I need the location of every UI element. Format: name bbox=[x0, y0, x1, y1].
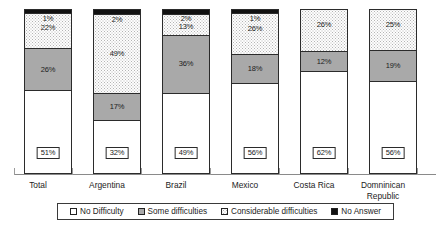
value-label-considerable-difficulties: 26% bbox=[317, 21, 332, 29]
segment-no-answer[interactable] bbox=[232, 10, 278, 14]
segment-some-difficulties[interactable]: 26% bbox=[25, 49, 71, 91]
segment-no-difficulty[interactable]: 49% bbox=[163, 94, 209, 173]
segment-some-difficulties[interactable]: 17% bbox=[94, 94, 140, 121]
value-label-no-answer: 2% bbox=[181, 15, 192, 23]
segment-considerable-difficulties[interactable]: 26% 1% bbox=[232, 14, 278, 55]
segment-no-difficulty[interactable]: 51% bbox=[25, 91, 71, 173]
segment-no-answer[interactable] bbox=[163, 10, 209, 15]
segment-no-answer[interactable] bbox=[94, 10, 140, 15]
stacked-bar-brazil[interactable]: 49% 36% 13% 2% bbox=[162, 9, 210, 174]
value-label-no-difficulty: 62% bbox=[313, 147, 336, 159]
segment-no-answer[interactable] bbox=[25, 10, 71, 14]
axis-tick bbox=[417, 168, 418, 175]
segment-no-difficulty[interactable]: 32% bbox=[94, 121, 140, 173]
stacked-bar-argentina[interactable]: 32% 17% 49% 2% bbox=[93, 9, 141, 174]
value-label-no-difficulty: 51% bbox=[37, 147, 60, 159]
legend-item-some-difficulties[interactable]: Some difficulties bbox=[138, 207, 207, 216]
stacked-bar-chart: 51% 26% 22% 1% 32% 17% bbox=[0, 0, 447, 237]
segment-considerable-difficulties[interactable]: 49% 2% bbox=[94, 15, 140, 94]
segment-no-difficulty[interactable]: 62% bbox=[301, 72, 347, 173]
value-label-no-difficulty: 56% bbox=[244, 147, 267, 159]
x-axis-label-dominican-republic: Domninican Republic bbox=[337, 180, 429, 201]
value-label-some-difficulties: 36% bbox=[179, 60, 194, 68]
segment-no-difficulty[interactable]: 56% bbox=[232, 84, 278, 173]
gray-swatch-icon bbox=[138, 208, 145, 215]
value-label-no-answer: 1% bbox=[43, 15, 54, 23]
legend-item-no-answer[interactable]: No Answer bbox=[331, 207, 381, 216]
value-label-considerable-difficulties: 26% bbox=[248, 25, 263, 33]
value-label-some-difficulties: 26% bbox=[41, 66, 56, 74]
legend-label-no-difficulty: No Difficulty bbox=[80, 207, 124, 216]
stacked-bar-costa-rica[interactable]: 62% 12% 26% bbox=[300, 9, 348, 174]
value-label-some-difficulties: 17% bbox=[110, 103, 125, 111]
bar-group-total: 51% 26% 22% 1% bbox=[24, 9, 72, 174]
value-label-no-difficulty: 56% bbox=[382, 147, 405, 159]
axis-tick bbox=[210, 168, 211, 175]
value-label-no-difficulty: 32% bbox=[106, 147, 129, 159]
segment-some-difficulties[interactable]: 19% bbox=[370, 51, 416, 82]
bar-group-brazil: 49% 36% 13% 2% bbox=[162, 9, 210, 174]
value-label-considerable-difficulties: 49% bbox=[110, 50, 125, 58]
axis-tick bbox=[72, 168, 73, 175]
axis-tick bbox=[14, 168, 15, 175]
segment-some-difficulties[interactable]: 12% bbox=[301, 52, 347, 72]
bar-group-costa-rica: 62% 12% 26% bbox=[300, 9, 348, 174]
bar-group-dominican-republic: 56% 19% 25% bbox=[369, 9, 417, 174]
stacked-bar-mexico[interactable]: 56% 18% 26% 1% bbox=[231, 9, 279, 174]
legend-label-considerable-difficulties: Considerable difficulties bbox=[231, 207, 317, 216]
segment-no-difficulty[interactable]: 56% bbox=[370, 82, 416, 173]
bar-group-argentina: 32% 17% 49% 2% bbox=[93, 9, 141, 174]
value-label-some-difficulties: 18% bbox=[248, 65, 263, 73]
x-axis-line bbox=[14, 174, 436, 175]
dotted-swatch-icon bbox=[221, 208, 228, 215]
segment-considerable-difficulties[interactable]: 13% 2% bbox=[163, 15, 209, 36]
x-axis-label-dominican-line1: Domninican bbox=[361, 180, 405, 190]
segment-some-difficulties[interactable]: 18% bbox=[232, 55, 278, 84]
segment-considerable-difficulties[interactable]: 25% bbox=[370, 10, 416, 51]
stacked-bar-dominican-republic[interactable]: 56% 19% 25% bbox=[369, 9, 417, 174]
x-axis-label-dominican-line2: Republic bbox=[367, 191, 400, 201]
value-label-considerable-difficulties: 22% bbox=[41, 24, 56, 32]
value-label-some-difficulties: 19% bbox=[386, 62, 401, 70]
value-label-considerable-difficulties: 13% bbox=[179, 23, 194, 31]
bar-group-mexico: 56% 18% 26% 1% bbox=[231, 9, 279, 174]
black-swatch-icon bbox=[331, 208, 338, 215]
axis-tick bbox=[348, 168, 349, 175]
legend: No Difficulty Some difficulties Consider… bbox=[57, 203, 394, 220]
segment-some-difficulties[interactable]: 36% bbox=[163, 36, 209, 94]
value-label-no-difficulty: 49% bbox=[175, 147, 198, 159]
legend-item-no-difficulty[interactable]: No Difficulty bbox=[70, 207, 124, 216]
legend-label-some-difficulties: Some difficulties bbox=[148, 207, 207, 216]
value-label-considerable-difficulties: 25% bbox=[386, 21, 401, 29]
value-label-no-answer: 2% bbox=[112, 16, 123, 24]
legend-item-considerable-difficulties[interactable]: Considerable difficulties bbox=[221, 207, 317, 216]
legend-label-no-answer: No Answer bbox=[341, 207, 381, 216]
axis-tick bbox=[141, 168, 142, 175]
axis-tick bbox=[279, 168, 280, 175]
stacked-bar-total[interactable]: 51% 26% 22% 1% bbox=[24, 9, 72, 174]
plot-area: 51% 26% 22% 1% 32% 17% bbox=[14, 9, 433, 174]
white-swatch-icon bbox=[70, 208, 77, 215]
value-label-no-answer: 1% bbox=[250, 15, 261, 23]
value-label-some-difficulties: 12% bbox=[317, 58, 332, 66]
segment-considerable-difficulties[interactable]: 22% 1% bbox=[25, 14, 71, 49]
segment-considerable-difficulties[interactable]: 26% bbox=[301, 10, 347, 52]
